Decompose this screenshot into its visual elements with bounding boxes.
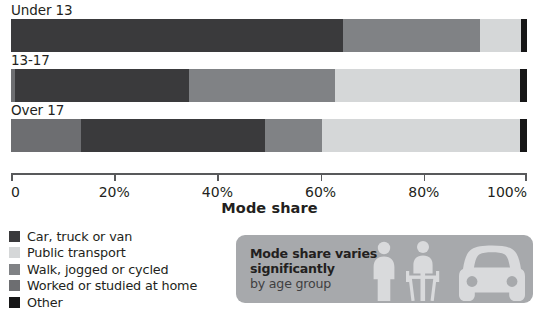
bar-label: Under 13 [11,2,527,19]
legend-swatch-icon [9,231,20,242]
legend-item[interactable]: Other [9,294,239,311]
legend-item-label: Worked or studied at home [27,278,197,293]
legend-swatch-icon [9,280,20,291]
bar-segment[interactable] [521,19,527,52]
pedestrian-icon [374,242,395,301]
bar-segment[interactable] [11,119,81,152]
bar-segment[interactable] [343,19,480,52]
stacked-bar[interactable] [11,69,527,102]
legend-item[interactable]: Worked or studied at home [9,278,239,295]
bar-group-13-17: 13-17 [11,52,527,102]
x-axis-tick-label: 80% [394,183,454,201]
legend-item-label: Public transport [27,245,126,260]
callout-icons [367,239,527,301]
x-axis-tick [11,173,13,181]
mode-share-chart: Under 13 13-17 Over 17 020%40%60%80%100%… [0,0,539,312]
bar-segment[interactable] [81,119,265,152]
x-axis-tick-label: 40% [187,183,247,201]
bar-segment[interactable] [520,69,527,102]
stacked-bar[interactable] [11,119,527,152]
x-axis-tick-label: 0 [11,183,20,201]
bar-segment[interactable] [335,69,520,102]
x-axis-tick [321,173,323,181]
legend-swatch-icon [9,264,20,275]
bar-segment[interactable] [322,119,520,152]
x-axis-tick-label: 60% [291,183,351,201]
cyclist-icon [406,241,439,301]
bar-segment[interactable] [480,19,521,52]
bar-label: 13-17 [11,52,527,69]
x-axis-tick [525,173,527,181]
stacked-bar[interactable] [11,19,527,52]
bar-group-over-17: Over 17 [11,102,527,152]
x-axis-line [11,173,527,175]
legend-swatch-icon [9,247,20,258]
bar-segment[interactable] [15,69,189,102]
bars-area: Under 13 13-17 Over 17 [11,2,527,152]
legend-item[interactable]: Walk, jogged or cycled [9,261,239,278]
legend-item-label: Walk, jogged or cycled [27,262,169,277]
bar-segment[interactable] [189,69,335,102]
legend: Car, truck or van Public transport Walk,… [9,228,239,311]
x-axis [11,173,527,182]
legend-item-label: Car, truck or van [27,229,132,244]
bar-group-under-13: Under 13 [11,2,527,52]
legend-swatch-icon [9,297,20,308]
legend-item[interactable]: Car, truck or van [9,228,239,245]
bar-label: Over 17 [11,102,527,119]
x-axis-tick [114,173,116,181]
legend-item[interactable]: Public transport [9,245,239,262]
bar-segment[interactable] [520,119,527,152]
bar-segment[interactable] [11,19,343,52]
legend-item-label: Other [27,295,63,310]
x-axis-tick [217,173,219,181]
x-axis-tick [424,173,426,181]
bar-segment[interactable] [265,119,322,152]
x-axis-tick-label: 100% [487,183,527,201]
x-axis-title: Mode share [0,200,539,216]
callout-box: Mode share varies significantly by age g… [236,235,533,303]
x-axis-tick-label: 20% [84,183,144,201]
